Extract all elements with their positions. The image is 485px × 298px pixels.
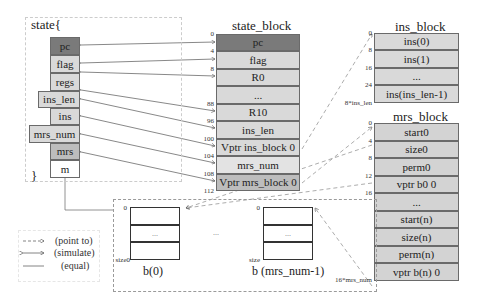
memory-layout-diagram: state{ } pc flag regs ins_len ins mrs_nu… — [0, 0, 485, 298]
legend-point-to: (point to) — [55, 235, 93, 246]
legend-simulate: (simulate) — [54, 247, 95, 258]
legend-equal: (equal) — [61, 260, 89, 271]
